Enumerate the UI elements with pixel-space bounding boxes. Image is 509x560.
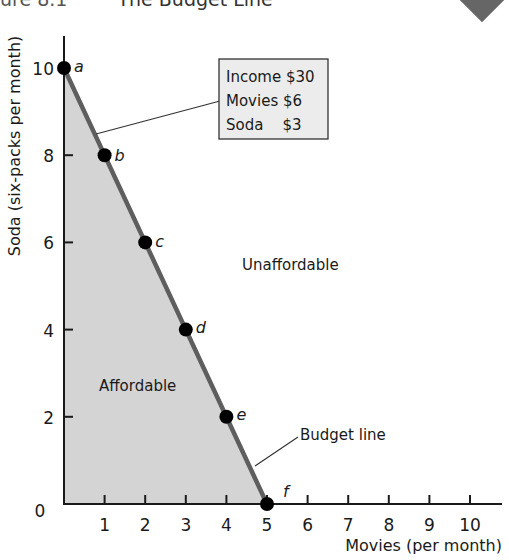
point-label-c: c [155,232,164,251]
legend-line: Movies $6 [226,92,302,110]
unaffordable-label: Unaffordable [242,256,339,274]
y-tick-label: 2 [43,408,54,428]
point-b [98,148,112,162]
x-axis-label: Movies (per month) [345,536,502,555]
point-d [179,323,193,337]
y-tick-label: 4 [43,321,54,341]
legend-line: Soda $3 [226,116,302,134]
affordable-label: Affordable [99,377,176,395]
budget-line-label: Budget line [300,426,386,444]
point-label-b: b [115,146,125,165]
y-tick-label: 6 [43,233,54,253]
x-tick-label: 10 [459,515,481,535]
point-label-a: a [74,57,84,76]
point-label-e: e [236,405,246,424]
x-tick-label: 7 [343,515,354,535]
point-c [138,235,152,249]
point-a [57,61,71,75]
x-tick-label: 9 [424,515,435,535]
y-tick-label: 10 [32,59,54,79]
origin-label: 0 [35,501,46,521]
x-tick-label: 8 [383,515,394,535]
legend-leader-line [96,101,220,134]
x-tick-label: 6 [302,515,313,535]
point-label-f: f [283,482,291,501]
point-e [219,410,233,424]
point-f [260,497,274,511]
x-tick-label: 3 [180,515,191,535]
x-tick-label: 1 [99,515,110,535]
y-axis-label: Soda (six-packs per month) [5,36,24,257]
x-tick-label: 5 [262,515,273,535]
legend-line: Income $30 [226,68,315,86]
point-label-d: d [196,318,207,337]
budget-line-leader [255,437,298,466]
x-tick-label: 2 [140,515,151,535]
x-tick-label: 4 [221,515,232,535]
y-tick-label: 8 [43,146,54,166]
budget-line-chart: 123456789102468100Movies (per month)Soda… [0,0,509,560]
